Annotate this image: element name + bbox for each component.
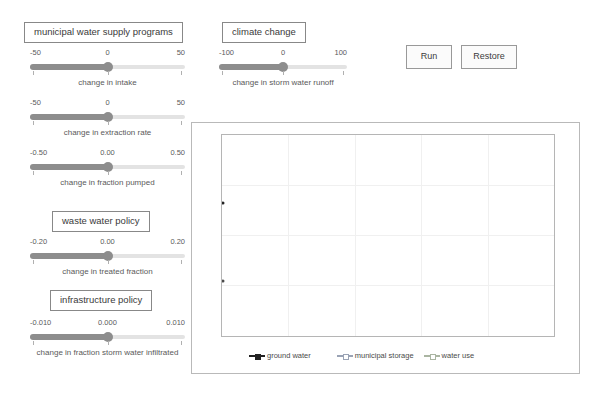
slider-track-fill — [219, 64, 283, 70]
slider-track[interactable] — [30, 62, 185, 71]
slider-tick-max — [181, 260, 182, 264]
group-header-municipal-water-supply-programs: municipal water supply programs — [24, 22, 183, 43]
x-tick-mark — [553, 336, 554, 337]
group-header-climate-change: climate change — [222, 22, 306, 43]
slider-scale: -50 0 50 — [30, 48, 185, 60]
slider-min-label: -100 — [219, 48, 234, 57]
slider-change-in-intake[interactable]: -50 0 50 change in intake — [30, 48, 185, 88]
slider-tick-mid — [108, 121, 109, 125]
slider-tick-mid — [283, 71, 284, 75]
legend-label: municipal storage — [355, 351, 414, 360]
slider-change-in-fraction-pumped[interactable]: -0.50 0.00 0.50 change in fraction pumpe… — [30, 148, 185, 188]
slider-track-fill — [30, 114, 108, 120]
slider-scale: -0.20 0.00 0.20 — [30, 237, 185, 249]
slider-max-label: 0.50 — [170, 148, 185, 157]
slider-scale: -0.010 0.000 0.010 — [30, 318, 185, 330]
slider-tick-mid — [108, 260, 109, 264]
slider-max-label: 0.010 — [166, 318, 185, 327]
slider-max-label: 50 — [177, 48, 185, 57]
slider-caption: change in intake — [30, 78, 185, 88]
slider-change-in-extraction-rate[interactable]: -50 0 50 change in extraction rate — [30, 98, 185, 138]
slider-track-fill — [30, 164, 108, 170]
x-tick-mark — [288, 336, 289, 337]
slider-scale: -50 0 50 — [30, 98, 185, 110]
slider-tick-row — [30, 71, 185, 76]
slider-max-label: 50 — [177, 98, 185, 107]
x-tick-mark — [488, 336, 489, 337]
slider-mid-label: 0.00 — [100, 148, 115, 157]
slider-tick-max — [343, 71, 344, 75]
legend-label: water use — [442, 351, 475, 360]
slider-max-label: 100 — [334, 48, 347, 57]
slider-mid-label: 0 — [281, 48, 285, 57]
chart-legend: ground water municipal storage water use — [249, 351, 474, 360]
plot-area: 10.5k 250 250 9.75k 215 215 9k 180 180 — [221, 134, 555, 337]
run-button[interactable]: Run — [406, 45, 452, 69]
slider-tick-min — [33, 171, 34, 175]
slider-tick-max — [181, 121, 182, 125]
legend-swatch-icon — [337, 352, 353, 359]
slider-change-in-storm-water-runoff[interactable]: -100 0 100 change in storm water runoff — [219, 48, 347, 88]
slider-track[interactable] — [30, 251, 185, 260]
slider-tick-row — [30, 121, 185, 126]
slider-mid-label: 0.000 — [98, 318, 117, 327]
slider-tick-row — [219, 71, 347, 76]
slider-scale: -0.50 0.00 0.50 — [30, 148, 185, 160]
slider-tick-row — [30, 341, 185, 346]
x-tick-mark — [355, 336, 356, 337]
gridline-horizontal — [222, 285, 554, 286]
slider-tick-max — [181, 171, 182, 175]
gridline-horizontal — [222, 185, 554, 186]
slider-change-in-fraction-storm-water-infiltrated[interactable]: -0.010 0.000 0.010 change in fraction st… — [30, 318, 185, 358]
x-tick-mark — [222, 336, 223, 337]
slider-mid-label: 0 — [105, 48, 109, 57]
slider-tick-max — [181, 341, 182, 345]
slider-track-fill — [30, 253, 108, 259]
legend-label: ground water — [267, 351, 311, 360]
slider-tick-min — [33, 71, 34, 75]
slider-min-label: -50 — [30, 48, 41, 57]
slider-caption: change in fraction storm water infiltrat… — [30, 348, 185, 358]
restore-button[interactable]: Restore — [461, 45, 517, 69]
slider-tick-min — [33, 260, 34, 264]
data-point-municipal-storage — [222, 280, 225, 283]
simulation-dashboard: municipal water supply programs -50 0 50… — [0, 0, 600, 402]
legend-swatch-icon — [249, 352, 265, 359]
slider-max-label: 0.20 — [170, 237, 185, 246]
slider-track[interactable] — [30, 162, 185, 171]
legend-swatch-icon — [424, 352, 440, 359]
slider-tick-row — [30, 260, 185, 265]
legend-item-municipal-storage[interactable]: municipal storage — [337, 351, 414, 360]
slider-track-fill — [30, 64, 108, 70]
slider-track-fill — [30, 334, 108, 340]
slider-caption: change in treated fraction — [30, 267, 185, 277]
slider-tick-min — [33, 121, 34, 125]
legend-item-ground-water[interactable]: ground water — [249, 351, 311, 360]
slider-track[interactable] — [30, 112, 185, 121]
slider-min-label: -0.50 — [30, 148, 47, 157]
slider-min-label: -0.20 — [30, 237, 47, 246]
slider-tick-mid — [108, 171, 109, 175]
slider-tick-mid — [108, 341, 109, 345]
slider-scale: -100 0 100 — [219, 48, 347, 60]
slider-tick-row — [30, 171, 185, 176]
slider-min-label: -50 — [30, 98, 41, 107]
slider-change-in-treated-fraction[interactable]: -0.20 0.00 0.20 change in treated fracti… — [30, 237, 185, 277]
slider-track[interactable] — [30, 332, 185, 341]
slider-tick-min — [33, 341, 34, 345]
x-tick-mark — [421, 336, 422, 337]
slider-mid-label: 0 — [105, 98, 109, 107]
slider-caption: change in extraction rate — [30, 128, 185, 138]
data-point-ground-water — [222, 202, 225, 205]
slider-min-label: -0.010 — [30, 318, 51, 327]
chart-panel: 10.5k 250 250 9.75k 215 215 9k 180 180 — [191, 122, 580, 374]
slider-caption: change in storm water runoff — [219, 78, 347, 88]
legend-item-water-use[interactable]: water use — [424, 351, 475, 360]
slider-tick-mid — [108, 71, 109, 75]
gridline-horizontal — [222, 235, 554, 236]
slider-tick-max — [181, 71, 182, 75]
slider-caption: change in fraction pumped — [30, 178, 185, 188]
slider-track[interactable] — [219, 62, 347, 71]
group-header-infrastructure-policy: infrastructure policy — [50, 290, 152, 311]
group-header-waste-water-policy: waste water policy — [52, 211, 150, 232]
